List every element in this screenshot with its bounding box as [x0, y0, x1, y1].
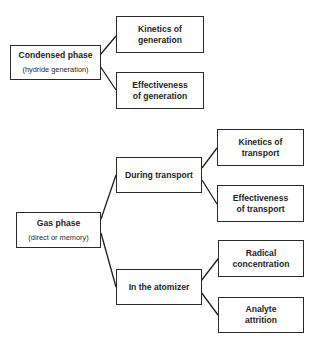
node-gas-phase: Gas phase (direct or memory) — [16, 212, 101, 248]
node-label-line1: Kinetics of — [138, 24, 182, 35]
node-label-line2: generation — [138, 35, 182, 46]
node-title: During transport — [125, 170, 193, 181]
node-label-line1: Analyte — [245, 304, 276, 315]
edge-atomizer-radical — [201, 259, 218, 281]
edge-transport-effectiveness — [202, 180, 217, 204]
node-analyte-attrition: Analyte attrition — [218, 297, 304, 333]
node-kinetics-of-generation: Kinetics of generation — [116, 16, 204, 53]
edge-condensed-effectiveness — [100, 66, 116, 90]
node-label-line2: transport — [242, 148, 280, 159]
node-label-line2: of transport — [236, 204, 284, 215]
node-in-the-atomizer: In the atomizer — [116, 269, 202, 305]
edge-gas-transport — [101, 175, 116, 219]
node-label-line1: Effectiveness — [132, 80, 187, 91]
node-radical-concentration: Radical concentration — [218, 240, 304, 277]
node-kinetics-of-transport: Kinetics of transport — [217, 129, 304, 166]
edge-atomizer-attrition — [201, 292, 218, 315]
edge-condensed-kinetics — [100, 36, 116, 55]
edge-gas-atomizer — [101, 233, 116, 287]
node-label-line2: of generation — [133, 91, 187, 102]
node-effectiveness-of-transport: Effectiveness of transport — [217, 185, 304, 222]
node-label-line1: Effectiveness — [233, 193, 288, 204]
node-label-line1: Radical — [246, 248, 277, 259]
node-subtitle: (hydride generation) — [22, 65, 88, 75]
node-title: Gas phase — [37, 218, 80, 229]
node-title: Condensed phase — [18, 50, 92, 61]
edge-transport-kinetics — [202, 148, 217, 168]
node-during-transport: During transport — [116, 157, 202, 193]
node-label-line2: attrition — [245, 315, 277, 326]
node-subtitle: (direct or memory) — [28, 233, 88, 243]
node-label-line1: Kinetics of — [239, 137, 283, 148]
node-label-line2: concentration — [233, 259, 290, 270]
node-effectiveness-of-generation: Effectiveness of generation — [116, 72, 204, 109]
node-condensed-phase: Condensed phase (hydride generation) — [10, 45, 101, 80]
node-title: In the atomizer — [129, 282, 190, 293]
